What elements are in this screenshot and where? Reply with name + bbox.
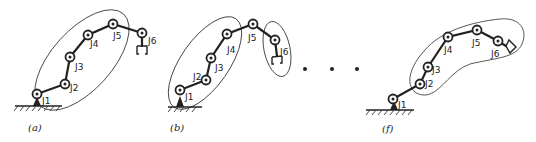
joint-j1: [33, 90, 42, 99]
joint-label-j2: J2: [424, 79, 433, 89]
joint-label-j2: J2: [69, 83, 78, 93]
joint-j4: [444, 33, 453, 42]
joint-j3: [207, 54, 216, 63]
joint-j4: [223, 30, 232, 39]
joint-j2: [202, 76, 211, 85]
panel-f: J1 J2 J3 J4 J5 J6 (f): [366, 19, 524, 134]
panel-a: J1 J2 J3 J4 J5 J6 (a): [14, 0, 157, 133]
joint-j3: [66, 53, 75, 62]
panel-caption-f: (f): [382, 123, 394, 134]
robot-arm-grouping-diagram: J1 J2 J3 J4 J5 J6 (a) J1 J2: [0, 0, 536, 142]
joint-label-j6: J6: [279, 47, 289, 57]
panel-caption-b: (b): [170, 122, 184, 133]
joint-label-j5: J5: [112, 31, 121, 41]
joint-j1: [389, 95, 398, 104]
joint-label-j4: J4: [443, 45, 453, 55]
joint-group-outline-j1-j4: [154, 5, 255, 121]
joint-j2: [416, 80, 425, 89]
joint-j6: [138, 29, 147, 38]
joint-label-j4: J4: [89, 39, 99, 49]
joint-label-j1: J1: [41, 96, 50, 106]
joint-label-j3: J3: [214, 63, 223, 73]
panel-caption-a: (a): [28, 122, 42, 133]
joint-j5: [109, 20, 118, 29]
joint-j5: [249, 20, 258, 29]
joint-j6: [494, 37, 503, 46]
joint-label-j3: J3: [74, 62, 83, 72]
joint-label-j2: J2: [192, 72, 201, 82]
joint-j2: [61, 80, 70, 89]
joint-label-j5: J5: [471, 38, 480, 48]
gripper-icon: [137, 46, 147, 54]
gripper-icon: [272, 56, 282, 64]
joint-label-j1: J1: [184, 92, 193, 102]
joint-label-j6: J6: [147, 36, 157, 46]
joint-j1: [176, 86, 185, 95]
joint-label-j6: J6: [490, 49, 500, 59]
panel-b: J1 J2 J3 J4 J5 J6 (b): [154, 5, 295, 133]
ellipsis-dots: [303, 67, 359, 71]
joint-label-j3: J3: [431, 65, 440, 75]
joint-j6: [271, 36, 280, 45]
joint-label-j5: J5: [247, 33, 256, 43]
joint-j5: [473, 26, 482, 35]
joint-label-j4: J4: [226, 45, 236, 55]
gripper-icon: [506, 40, 516, 53]
joint-label-j1: J1: [397, 100, 406, 110]
